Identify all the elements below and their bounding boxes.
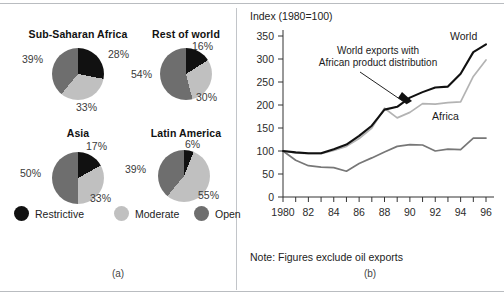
- pie-slices-sub-saharan-africa: [52, 48, 104, 100]
- x-axis-tick-label: 94: [455, 206, 467, 218]
- legend-item-open[interactable]: Open: [194, 206, 241, 221]
- pie-3-pct-restrictive: 6%: [185, 138, 200, 150]
- x-axis-tick-label: 84: [328, 206, 340, 218]
- pie-1-pct-restrictive: 16%: [192, 40, 213, 52]
- y-axis-tick-label: 0: [268, 191, 274, 203]
- pie-title-rest-of-world: Rest of world: [140, 28, 232, 40]
- y-axis-tick-label: 150: [256, 122, 274, 134]
- pie-title-asia: Asia: [48, 127, 108, 139]
- x-axis-tick-label: 96: [480, 206, 492, 218]
- chart-y-axis-caption: Index (1980=100): [250, 10, 333, 22]
- x-axis-tick-label: 90: [404, 206, 416, 218]
- panel-a-pies: Sub-Saharan Africa 28% 33% 39% Rest of w…: [0, 0, 236, 298]
- legend-label-restrictive: Restrictive: [35, 208, 84, 220]
- legend-label-moderate: Moderate: [135, 208, 179, 220]
- pie-2-pct-restrictive: 17%: [86, 140, 107, 152]
- chart-note: Note: Figures exclude oil exports: [250, 251, 403, 263]
- pie-legend: Restrictive Moderate Open: [14, 206, 226, 228]
- pie-3-pct-moderate: 55%: [198, 189, 219, 201]
- legend-swatch-restrictive-icon: [14, 206, 29, 221]
- x-axis-tick-label: 86: [353, 206, 365, 218]
- pie-title-sub-saharan-africa: Sub-Saharan Africa: [18, 28, 138, 40]
- pie-0-pct-restrictive: 28%: [108, 48, 129, 60]
- series-line-africa: [283, 138, 486, 171]
- panel-b-line-chart: Index (1980=100) 05010015020025030035019…: [236, 0, 504, 298]
- x-axis-tick-label: 92: [429, 206, 441, 218]
- x-axis-tick-label: 1980: [271, 206, 295, 218]
- panel-b-caption: (b): [236, 268, 504, 279]
- annotation-line-1: World exports with: [337, 45, 419, 56]
- series-label-africa: Africa: [432, 110, 459, 122]
- legend-swatch-open-icon: [194, 206, 209, 221]
- legend-item-moderate[interactable]: Moderate: [114, 206, 179, 221]
- pie-1-pct-moderate: 30%: [196, 91, 217, 103]
- pie-1-pct-open: 54%: [131, 68, 152, 80]
- pie-0-pct-moderate: 33%: [76, 101, 97, 113]
- pie-2-pct-open: 50%: [20, 167, 41, 179]
- pie-0-pct-open: 39%: [22, 53, 43, 65]
- x-axis-tick-label: 82: [303, 206, 315, 218]
- annotation-line-2: African product distribution: [319, 57, 437, 68]
- line-chart-svg: 0501001502002503003501980828486889092949…: [236, 22, 504, 247]
- pie-chart-sub-saharan-africa: [52, 48, 104, 100]
- y-axis-tick-label: 50: [262, 168, 274, 180]
- y-axis-tick-label: 200: [256, 99, 274, 111]
- y-axis-tick-label: 250: [256, 76, 274, 88]
- x-axis-tick-label: 88: [379, 206, 391, 218]
- legend-swatch-moderate-icon: [114, 206, 129, 221]
- figure-container: Sub-Saharan Africa 28% 33% 39% Rest of w…: [0, 0, 504, 298]
- pie-2-pct-moderate: 33%: [90, 192, 111, 204]
- series-label-world: World: [450, 30, 477, 42]
- y-axis-tick-label: 350: [256, 30, 274, 42]
- pie-3-pct-open: 39%: [125, 163, 146, 175]
- y-axis-tick-label: 100: [256, 145, 274, 157]
- legend-item-restrictive[interactable]: Restrictive: [14, 206, 84, 221]
- panel-a-caption: (a): [0, 268, 236, 279]
- series-line-world: [283, 60, 486, 154]
- y-axis-tick-label: 300: [256, 53, 274, 65]
